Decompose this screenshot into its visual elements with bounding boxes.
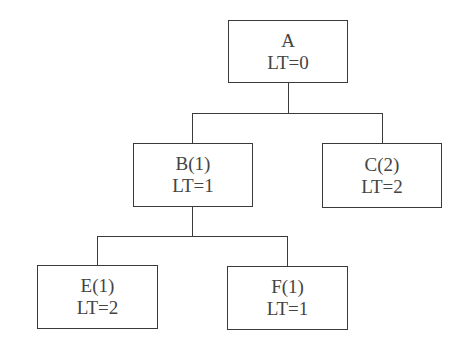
node-f-lt: LT=1: [267, 298, 309, 320]
node-e-label: E(1): [81, 275, 115, 297]
node-f-label: F(1): [271, 276, 304, 298]
node-b-lt: LT=1: [172, 175, 214, 197]
edge-a-horizontal: [192, 113, 383, 114]
edge-a-down: [288, 82, 289, 113]
node-c-lt: LT=2: [361, 176, 403, 198]
edge-b-horizontal: [97, 236, 288, 237]
edge-b-down: [192, 206, 193, 236]
edge-to-b: [192, 113, 193, 143]
edge-to-f: [287, 236, 288, 266]
node-f: F(1) LT=1: [227, 266, 348, 330]
node-b: B(1) LT=1: [133, 143, 253, 207]
node-b-label: B(1): [176, 153, 211, 175]
node-e-lt: LT=2: [77, 297, 119, 319]
node-a-lt: LT=0: [267, 52, 309, 74]
edge-to-c: [382, 113, 383, 143]
node-a: A LT=0: [228, 20, 348, 83]
node-a-label: A: [281, 30, 295, 52]
node-c: C(2) LT=2: [322, 143, 442, 208]
node-e: E(1) LT=2: [37, 265, 158, 329]
edge-to-e: [97, 236, 98, 265]
node-c-label: C(2): [365, 154, 400, 176]
